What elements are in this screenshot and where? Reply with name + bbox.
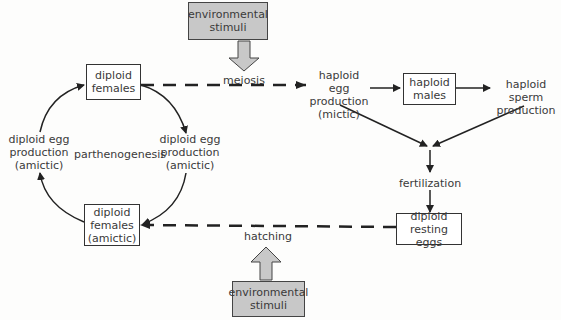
life-cycle-diagram: environmental stimuli meiosis diploid fe… (0, 0, 561, 320)
fertilization-label: fertilization (395, 177, 465, 190)
environmental-stimuli-bottom: environmental stimuli (232, 281, 305, 317)
env-arrow-up (251, 247, 281, 280)
haploid-males-text: haploid males (409, 76, 450, 102)
haploid-egg-production-label: haploid egg production (mictic) (307, 69, 371, 121)
meiosis-label: meiosis (212, 74, 276, 87)
env-top-text: environmental stimuli (188, 8, 268, 34)
environmental-stimuli-top: environmental stimuli (188, 2, 268, 40)
diploid-females-text: diploid females (92, 69, 136, 95)
dashed-hatching-line (147, 225, 396, 227)
diploid-resting-eggs-box: diploid resting eggs (396, 213, 462, 245)
parthenogenesis-label: parthenogenesis (74, 148, 154, 161)
resting-eggs-text: diploid resting eggs (397, 210, 461, 249)
diploid-egg-production-left-label: diploid egg production (amictic) (4, 133, 74, 172)
haploid-males-box: haploid males (403, 73, 456, 105)
diploid-egg-production-right-label: diploid egg production (amictic) (155, 133, 225, 172)
diploid-females-amictic-box: diploid females (amictic) (84, 204, 140, 246)
env-bottom-text: environmental stimuli (229, 286, 309, 312)
haploid-sperm-production-label: haploid sperm production (492, 78, 560, 117)
env-arrow-down (229, 41, 259, 71)
diploid-females-amictic-text: diploid females (amictic) (88, 206, 137, 245)
hatching-label: hatching (240, 230, 296, 243)
diploid-females-box: diploid females (86, 64, 141, 100)
